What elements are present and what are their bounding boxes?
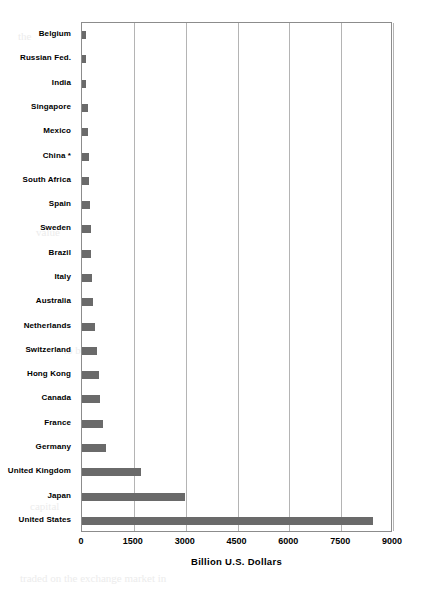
gridline xyxy=(289,23,290,531)
gridline xyxy=(393,23,394,531)
x-axis-tick-labels: 0150030004500600075009000 xyxy=(0,537,426,551)
x-tick-label: 9000 xyxy=(382,537,402,546)
bar xyxy=(82,177,89,185)
gridline xyxy=(134,23,135,531)
x-tick-label: 3000 xyxy=(175,537,195,546)
bar xyxy=(82,395,100,403)
bar xyxy=(82,468,141,476)
bar xyxy=(82,298,93,306)
bar xyxy=(82,371,99,379)
bar xyxy=(82,55,86,63)
category-label: Germany xyxy=(36,443,71,451)
category-label: France xyxy=(44,419,71,427)
category-label: India xyxy=(52,79,71,87)
gridline xyxy=(341,23,342,531)
gridline xyxy=(186,23,187,531)
category-label: Hong Kong xyxy=(27,370,71,378)
category-label: Brazil xyxy=(49,249,71,257)
x-tick-label: 4500 xyxy=(226,537,246,546)
category-label: Sweden xyxy=(40,224,71,232)
bar xyxy=(82,104,88,112)
category-label: China * xyxy=(43,152,71,160)
bar xyxy=(82,347,97,355)
bar-chart: theofin theandsomemarketvaluethatasto be… xyxy=(0,0,426,591)
background-artifact: traded on the exchange market in xyxy=(20,572,166,584)
bar xyxy=(82,420,103,428)
bar xyxy=(82,128,88,136)
bar xyxy=(82,517,373,525)
category-label: United Kingdom xyxy=(8,467,71,475)
bar xyxy=(82,31,86,39)
bar xyxy=(82,201,90,209)
bar xyxy=(82,80,86,88)
x-tick-label: 1500 xyxy=(123,537,143,546)
category-label: Australia xyxy=(36,297,71,305)
gridline xyxy=(238,23,239,531)
category-label: South Africa xyxy=(23,176,71,184)
category-label: Singapore xyxy=(31,103,71,111)
category-label: Italy xyxy=(54,273,71,281)
category-label: Canada xyxy=(42,394,72,402)
bar xyxy=(82,153,89,161)
bar xyxy=(82,225,91,233)
bar xyxy=(82,274,92,282)
bar xyxy=(82,444,106,452)
category-axis-labels: BelgiumRussian Fed.IndiaSingaporeMexicoC… xyxy=(0,22,75,532)
category-label: Russian Fed. xyxy=(20,54,71,62)
bar xyxy=(82,323,95,331)
x-tick-label: 6000 xyxy=(278,537,298,546)
category-label: Mexico xyxy=(43,127,71,135)
x-tick-label: 0 xyxy=(78,537,83,546)
bar xyxy=(82,493,185,501)
bar xyxy=(82,250,91,258)
category-label: Switzerland xyxy=(25,346,71,354)
category-label: United States xyxy=(19,516,71,524)
x-tick-label: 7500 xyxy=(330,537,350,546)
category-label: Spain xyxy=(49,200,71,208)
category-label: Japan xyxy=(47,492,71,500)
plot-area xyxy=(81,22,392,532)
x-axis-title: Billion U.S. Dollars xyxy=(81,556,392,567)
category-label: Netherlands xyxy=(24,322,71,330)
category-label: Belgium xyxy=(39,30,71,38)
